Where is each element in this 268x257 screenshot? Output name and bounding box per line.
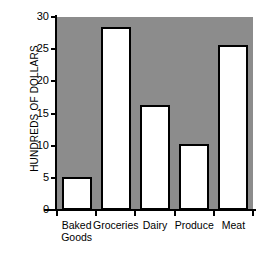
y-axis-tick bbox=[51, 80, 57, 82]
bar bbox=[62, 177, 92, 210]
y-axis-tick-label: 5 bbox=[43, 172, 49, 183]
y-axis-tick bbox=[51, 177, 57, 179]
y-axis-tick-label: 0 bbox=[43, 204, 49, 215]
bar-chart: HUNDREDS OF DOLLARS 051015202530 Baked G… bbox=[0, 0, 268, 257]
x-axis-tick bbox=[213, 211, 215, 216]
y-axis-tick-label: 15 bbox=[37, 108, 49, 119]
bar bbox=[101, 27, 131, 210]
x-axis-tick bbox=[174, 211, 176, 216]
bar bbox=[218, 45, 248, 210]
bar bbox=[179, 144, 209, 210]
y-axis-tick-label: 10 bbox=[37, 140, 49, 151]
y-axis-tick bbox=[51, 16, 57, 18]
y-axis-tick-label: 20 bbox=[37, 75, 49, 86]
x-axis-tick bbox=[134, 211, 136, 216]
bar bbox=[140, 105, 170, 210]
x-axis-tick bbox=[95, 211, 97, 216]
y-axis-tick-label: 25 bbox=[37, 43, 49, 54]
x-axis-tick bbox=[56, 211, 58, 216]
y-axis-tick bbox=[51, 145, 57, 147]
x-axis-category-label: Meat bbox=[208, 219, 259, 231]
y-axis-tick bbox=[51, 113, 57, 115]
x-axis-tick bbox=[252, 211, 254, 216]
y-axis-tick bbox=[51, 48, 57, 50]
y-axis-tick-label: 30 bbox=[37, 11, 49, 22]
